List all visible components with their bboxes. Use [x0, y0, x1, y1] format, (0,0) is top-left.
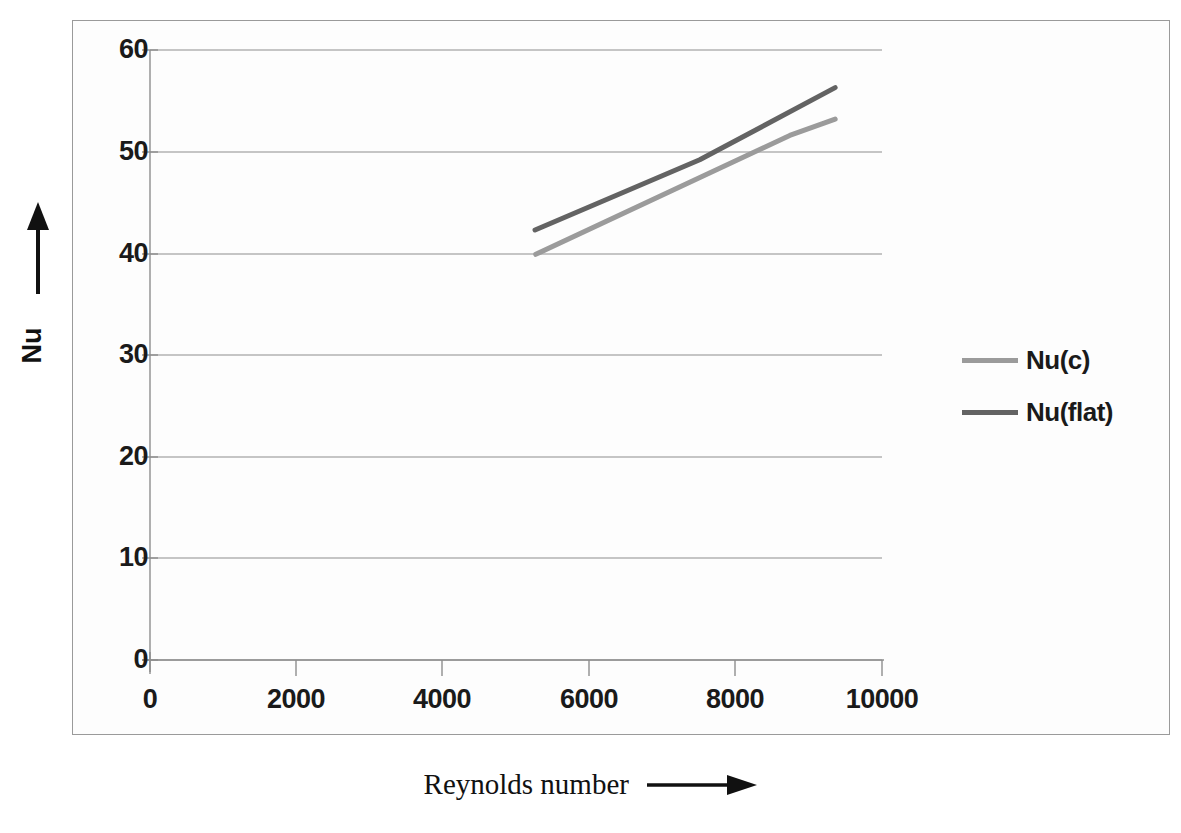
y-tick-label-0: 0: [78, 644, 148, 675]
y-tick-label-30: 30: [78, 339, 148, 370]
legend-item-nu-c[interactable]: Nu(c): [962, 334, 1162, 386]
x-tick-label-0: 0: [85, 684, 215, 715]
arrow-right-icon: [647, 774, 757, 796]
x-tick-label-8000: 8000: [670, 684, 800, 715]
x-axis-title: Reynolds number: [424, 768, 629, 800]
x-tick-label-6000: 6000: [524, 684, 654, 715]
x-tick-label-4000: 4000: [377, 684, 507, 715]
arrow-up-icon: [26, 202, 50, 294]
legend-swatch-nu-c: [962, 358, 1018, 363]
chart-legend: Nu(c) Nu(flat): [962, 334, 1162, 438]
legend-label-nu-c: Nu(c): [1026, 345, 1090, 376]
y-tick-label-20: 20: [78, 441, 148, 472]
legend-item-nu-flat[interactable]: Nu(flat): [962, 386, 1162, 438]
y-tick-label-40: 40: [78, 238, 148, 269]
x-axis-title-group: Reynolds number: [0, 768, 1181, 801]
x-tick-label-10000: 10000: [817, 684, 947, 715]
x-tick-label-2000: 2000: [231, 684, 361, 715]
y-tick-label-60: 60: [78, 34, 148, 65]
legend-swatch-nu-flat: [962, 410, 1018, 415]
legend-label-nu-flat: Nu(flat): [1026, 397, 1113, 428]
y-tick-label-50: 50: [78, 136, 148, 167]
y-axis-title: Nu: [17, 306, 48, 386]
y-tick-label-10: 10: [78, 542, 148, 573]
